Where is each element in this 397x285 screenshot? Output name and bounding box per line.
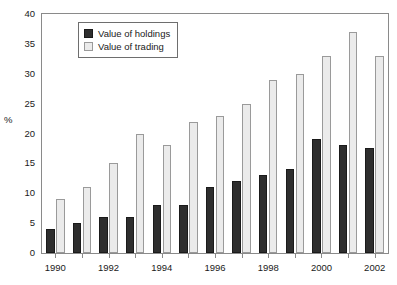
- y-axis-tick-label: 10: [24, 188, 35, 198]
- legend-item: Value of holdings: [84, 27, 170, 40]
- legend-item: Value of trading: [84, 40, 170, 53]
- bar-value-of-trading: [242, 104, 251, 253]
- x-axis-tick-label: 1996: [195, 263, 235, 273]
- x-axis-tick-label: 1992: [89, 263, 129, 273]
- bar-value-of-trading: [189, 122, 198, 253]
- y-axis-tick-label: 35: [24, 39, 35, 49]
- bar-value-of-trading: [136, 134, 145, 254]
- x-axis-tick-mark: [188, 254, 189, 258]
- bar-value-of-trading: [83, 187, 92, 253]
- y-axis: 0510152025303540: [0, 0, 41, 285]
- x-axis-tick-mark: [321, 254, 322, 258]
- x-axis-tick-mark: [109, 254, 110, 258]
- legend-item-label: Value of trading: [98, 41, 164, 52]
- x-axis-tick-mark: [295, 254, 296, 258]
- bar-value-of-trading: [375, 56, 384, 253]
- bar-value-of-trading: [322, 56, 331, 253]
- bar-group: [339, 14, 358, 253]
- x-axis-tick-mark: [162, 254, 163, 258]
- bar-value-of-holdings: [153, 205, 162, 253]
- x-axis-tick-mark: [348, 254, 349, 258]
- y-axis-tick-label: 30: [24, 69, 35, 79]
- bar-value-of-holdings: [206, 187, 215, 253]
- bar-value-of-trading: [163, 145, 172, 253]
- bar-value-of-trading: [216, 116, 225, 253]
- x-axis-tick-mark: [268, 254, 269, 258]
- bar-group: [46, 14, 65, 253]
- x-axis-tick-label: 2000: [301, 263, 341, 273]
- x-axis-tick-label: 2002: [355, 263, 395, 273]
- bar-group: [286, 14, 305, 253]
- y-axis-tick-label: 25: [24, 99, 35, 109]
- y-axis-tick-label: 0: [30, 248, 35, 258]
- legend-swatch-holdings-icon: [84, 29, 93, 38]
- bar-group: [179, 14, 198, 253]
- bar-value-of-trading: [296, 74, 305, 253]
- bar-value-of-holdings: [126, 217, 135, 253]
- bar-value-of-holdings: [286, 169, 295, 253]
- bar-group: [259, 14, 278, 253]
- bar-group: [232, 14, 251, 253]
- bar-chart-figure: % 0510152025303540 199019921994199619982…: [0, 0, 397, 285]
- bar-value-of-holdings: [312, 139, 321, 253]
- bar-value-of-trading: [349, 32, 358, 253]
- x-axis-tick-mark: [82, 254, 83, 258]
- x-axis: 1990199219941996199820002002: [42, 254, 388, 284]
- legend-swatch-trading-icon: [84, 42, 93, 51]
- y-axis-tick-label: 20: [24, 129, 35, 139]
- bar-value-of-holdings: [232, 181, 241, 253]
- x-axis-tick-mark: [242, 254, 243, 258]
- x-axis-tick-mark: [55, 254, 56, 258]
- bar-value-of-trading: [269, 80, 278, 253]
- bar-value-of-holdings: [365, 148, 374, 253]
- bar-group: [206, 14, 225, 253]
- x-axis-tick-mark: [375, 254, 376, 258]
- bar-value-of-trading: [109, 163, 118, 253]
- y-axis-tick-label: 5: [30, 218, 35, 228]
- bar-group: [312, 14, 331, 253]
- bar-value-of-holdings: [339, 145, 348, 253]
- y-axis-tick-label: 40: [24, 9, 35, 19]
- bar-value-of-trading: [56, 199, 65, 253]
- bar-value-of-holdings: [259, 175, 268, 253]
- legend-item-label: Value of holdings: [98, 28, 170, 39]
- bar-value-of-holdings: [99, 217, 108, 253]
- x-axis-tick-mark: [215, 254, 216, 258]
- x-axis-tick-mark: [135, 254, 136, 258]
- bar-group: [365, 14, 384, 253]
- bar-value-of-holdings: [73, 223, 82, 253]
- x-axis-tick-label: 1990: [35, 263, 75, 273]
- x-axis-tick-label: 1998: [248, 263, 288, 273]
- x-axis-tick-label: 1994: [142, 263, 182, 273]
- y-axis-tick-label: 15: [24, 158, 35, 168]
- chart-legend: Value of holdingsValue of trading: [78, 22, 178, 58]
- bar-value-of-holdings: [46, 229, 55, 253]
- bar-value-of-holdings: [179, 205, 188, 253]
